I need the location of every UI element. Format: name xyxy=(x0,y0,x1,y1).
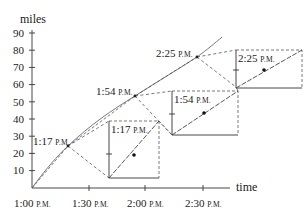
point-label-2: 1:54 P.M. xyxy=(96,86,133,97)
y-tick-30: 30 xyxy=(4,131,24,142)
y-tick-10: 10 xyxy=(4,165,24,176)
y-tick-60: 60 xyxy=(4,79,24,90)
box-label-2: 1:54 P.M. xyxy=(174,94,211,105)
connector-lines xyxy=(68,50,238,178)
x-axis-label: time xyxy=(236,181,257,193)
x-tick-230: 2:30 P.M. xyxy=(185,198,222,209)
x-tick-200: 2:00 P.M. xyxy=(127,198,164,209)
y-tick-90: 90 xyxy=(4,28,24,39)
x-tick-130: 1:30 P.M. xyxy=(72,198,109,209)
y-tick-80: 80 xyxy=(4,45,24,56)
y-axis-label: miles xyxy=(20,13,46,25)
point-label-3: 2:25 P.M. xyxy=(156,48,193,59)
chart: miles time 90 80 70 60 50 40 30 20 10 1:… xyxy=(0,0,305,215)
point-3 xyxy=(196,56,199,59)
point-2 xyxy=(134,95,137,98)
point-label-1: 1:17 P.M. xyxy=(33,136,70,147)
chart-graphics xyxy=(0,0,305,215)
x-tick-100: 1:00 P.M. xyxy=(14,198,51,209)
box-label-3: 2:25 P.M. xyxy=(238,53,275,64)
y-tick-40: 40 xyxy=(4,114,24,125)
y-tick-70: 70 xyxy=(4,62,24,73)
y-tick-50: 50 xyxy=(4,97,24,108)
y-tick-20: 20 xyxy=(4,148,24,159)
box-label-1: 1:17 P.M. xyxy=(111,124,148,135)
